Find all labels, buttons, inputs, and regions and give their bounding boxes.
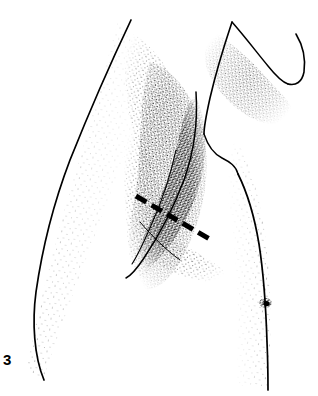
axilla-illustration	[0, 0, 318, 396]
figure-container: 3	[0, 0, 318, 396]
nipple	[259, 298, 271, 308]
figure-number-label: 3	[3, 352, 11, 367]
lateral-chest-shading	[0, 0, 318, 396]
stipple-shading-group	[0, 0, 318, 396]
